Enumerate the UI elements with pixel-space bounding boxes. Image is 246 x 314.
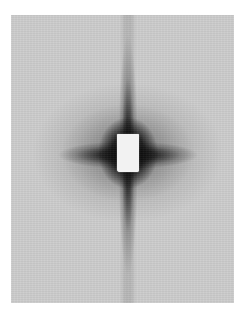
- diffraction-photograph: [11, 15, 234, 303]
- beam-stop: [117, 134, 139, 172]
- figure: [0, 0, 246, 314]
